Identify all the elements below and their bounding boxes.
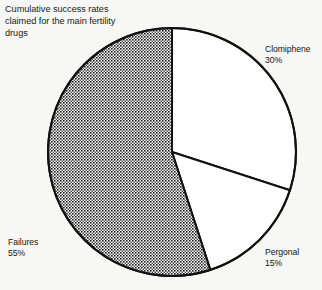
slice-label-pergonal-name: Pergonal <box>265 247 299 257</box>
slice-label-failures-name: Failures <box>8 237 38 247</box>
pie-slices <box>48 28 296 276</box>
slice-label-failures-pct: 55% <box>8 248 38 259</box>
pie-chart-figure: • • • • Cumulative success rates claimed… <box>0 0 322 290</box>
slice-label-failures: Failures 55% <box>8 237 38 258</box>
slice-label-clomiphene-name: Clomiphene <box>265 44 310 54</box>
slice-label-clomiphene: Clomiphene 30% <box>265 44 310 65</box>
slice-label-clomiphene-pct: 30% <box>265 55 310 66</box>
slice-label-pergonal: Pergonal 15% <box>265 247 299 268</box>
slice-label-pergonal-pct: 15% <box>265 258 299 269</box>
